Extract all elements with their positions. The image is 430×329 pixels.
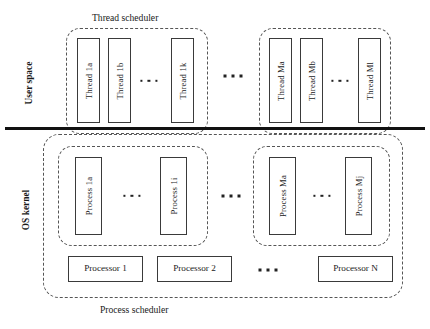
thread-box-ml[interactable]: Thread Ml [358,38,381,123]
user-space-label: User space [24,53,34,113]
processors-ellipsis [259,269,278,272]
thread-box-1k-label: Thread 1k [178,62,187,99]
os-kernel-label: OS kernel [21,180,31,240]
processor-box-1-label: Processor 1 [69,264,142,273]
thread-group-1-ellipsis [140,80,157,82]
processor-box-1[interactable]: Processor 1 [68,256,143,282]
process-box-mj[interactable]: Process Mj [345,157,372,235]
thread-box-mb-label: Thread Mb [307,60,316,100]
process-group-1-ellipsis [123,195,140,197]
process-box-1i-label: Process 1i [169,177,178,214]
process-box-1i[interactable]: Process 1i [160,157,187,235]
processor-box-2-label: Processor 2 [158,264,231,273]
process-box-1a[interactable]: Process 1a [75,157,102,235]
user-kernel-divider [5,127,425,130]
process-groups-ellipsis [222,195,241,198]
processor-box-n-label: Processor N [319,264,392,273]
thread-box-1b-label: Thread 1b [115,62,124,99]
thread-groups-ellipsis [224,75,243,78]
thread-box-1a-label: Thread 1a [84,62,93,98]
thread-box-ma-label: Thread Ma [276,61,285,101]
thread-box-1a[interactable]: Thread 1a [77,38,100,123]
process-box-ma[interactable]: Process Ma [269,157,296,235]
process-group-1-container[interactable]: Process 1a Process 1i [58,146,208,246]
thread-scheduler-caption: Thread scheduler [92,13,158,23]
process-box-mj-label: Process Mj [354,176,363,216]
thread-box-ml-label: Thread Ml [365,61,374,99]
processor-box-2[interactable]: Processor 2 [157,256,232,282]
thread-box-ma[interactable]: Thread Ma [269,38,292,123]
thread-group-m-ellipsis [331,80,348,82]
thread-group-m-container[interactable]: Thread Ma Thread Mb Thread Ml [259,28,391,134]
process-group-m-ellipsis [313,195,330,197]
process-box-1a-label: Process 1a [84,177,93,216]
processor-box-n[interactable]: Processor N [318,256,393,282]
process-box-ma-label: Process Ma [278,175,287,217]
thread-group-1-container[interactable]: Thread 1a Thread 1b Thread 1k [66,28,208,134]
thread-box-1b[interactable]: Thread 1b [108,38,131,123]
thread-box-1k[interactable]: Thread 1k [171,38,194,123]
process-group-m-container[interactable]: Process Ma Process Mj [253,146,390,246]
thread-box-mb[interactable]: Thread Mb [300,38,323,123]
diagram-canvas: Thread scheduler User space OS kernel Th… [0,0,430,329]
process-scheduler-caption: Process scheduler [100,305,168,315]
